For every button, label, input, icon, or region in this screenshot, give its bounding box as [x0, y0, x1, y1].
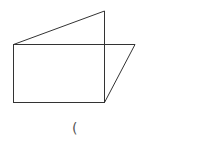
slanted-top-edge	[14, 11, 105, 45]
slanted-side-edge	[105, 45, 136, 103]
front-rectangle	[14, 45, 105, 103]
caption-label: (	[72, 120, 77, 136]
geometric-figure	[0, 0, 202, 148]
